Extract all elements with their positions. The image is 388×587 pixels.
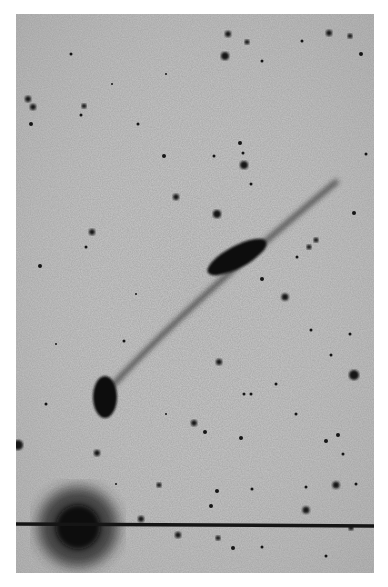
star xyxy=(250,393,253,396)
star xyxy=(326,30,332,36)
star xyxy=(165,73,167,75)
star xyxy=(175,532,181,538)
star xyxy=(310,329,313,332)
star xyxy=(203,430,207,434)
star xyxy=(157,483,162,488)
star xyxy=(261,60,264,63)
star xyxy=(216,359,222,365)
star xyxy=(213,155,216,158)
star xyxy=(314,238,319,243)
star xyxy=(336,433,340,437)
star xyxy=(260,277,264,281)
star xyxy=(352,211,356,215)
star xyxy=(29,122,33,126)
star xyxy=(216,536,221,541)
star xyxy=(70,53,73,56)
star xyxy=(89,229,95,235)
star xyxy=(245,40,250,45)
star xyxy=(303,507,310,514)
compact-object xyxy=(93,376,117,418)
star xyxy=(242,152,245,155)
star xyxy=(342,453,345,456)
diffraction-line xyxy=(16,524,374,526)
star xyxy=(137,123,140,126)
star xyxy=(173,194,179,200)
star xyxy=(348,34,353,39)
star xyxy=(349,333,352,336)
star xyxy=(209,504,213,508)
star xyxy=(225,31,231,37)
star xyxy=(238,141,242,145)
star xyxy=(333,482,340,489)
star xyxy=(307,245,312,250)
star xyxy=(301,40,304,43)
star xyxy=(239,436,243,440)
star xyxy=(82,104,87,109)
star xyxy=(324,439,328,443)
star xyxy=(295,413,298,416)
star xyxy=(250,183,253,186)
star xyxy=(30,104,36,110)
star xyxy=(215,489,219,493)
star xyxy=(25,96,31,102)
star xyxy=(359,52,363,56)
star xyxy=(138,516,144,522)
star xyxy=(296,256,299,259)
star xyxy=(45,403,48,406)
star xyxy=(325,555,328,558)
star xyxy=(80,114,83,117)
star xyxy=(55,343,57,345)
star xyxy=(221,52,229,60)
star xyxy=(94,450,100,456)
star xyxy=(282,294,289,301)
star xyxy=(38,264,42,268)
star xyxy=(330,354,333,357)
star xyxy=(115,483,117,485)
star xyxy=(261,546,264,549)
star xyxy=(135,293,137,295)
star xyxy=(165,413,167,415)
star xyxy=(213,210,221,218)
star xyxy=(305,486,308,489)
star xyxy=(85,246,88,249)
star xyxy=(349,370,359,380)
star xyxy=(355,483,358,486)
star-field xyxy=(16,14,374,573)
star xyxy=(111,83,113,85)
star xyxy=(251,488,254,491)
star xyxy=(123,340,126,343)
star xyxy=(162,154,166,158)
astronomical-plate-image xyxy=(16,14,374,573)
star xyxy=(365,153,368,156)
star xyxy=(243,393,246,396)
star xyxy=(240,161,248,169)
star xyxy=(231,546,235,550)
star xyxy=(275,383,278,386)
star xyxy=(191,420,197,426)
